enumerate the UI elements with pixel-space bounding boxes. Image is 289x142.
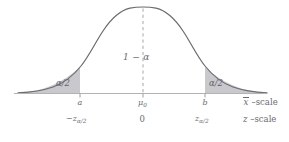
xbar-tick-label-a: a (78, 99, 83, 107)
z-scale-text: –scale (250, 114, 276, 124)
minus-sign: − (66, 114, 73, 123)
xbar-tick-label-mu0: μ0 (138, 99, 147, 108)
normal-curve-figure: α/2 α/2 1 − α a μ0 b −zα/2 0 zα/2 x –sca… (0, 0, 289, 142)
confidence-level-label: 1 − α (123, 53, 150, 62)
right-tail-alpha-label: α/2 (209, 79, 223, 88)
z-tick-label-negative-critical: −zα/2 (66, 115, 86, 124)
x-bar-symbol: x (243, 98, 249, 107)
z-subscript-right: α/2 (199, 118, 208, 124)
xbar-scale-text: –scale (252, 97, 278, 107)
mu-subscript: 0 (143, 102, 147, 108)
z-scale-caption: z –scale (243, 115, 276, 124)
xbar-tick-label-b: b (203, 99, 208, 107)
left-tail-alpha-label: α/2 (56, 79, 70, 88)
left-rejection-region-shading (18, 67, 80, 94)
xbar-scale-caption: x –scale (243, 98, 278, 107)
z-subscript-left: α/2 (77, 118, 86, 124)
z-scale-symbol: z (243, 114, 247, 124)
z-tick-label-zero: 0 (140, 115, 145, 124)
z-tick-label-positive-critical: zα/2 (195, 115, 209, 124)
